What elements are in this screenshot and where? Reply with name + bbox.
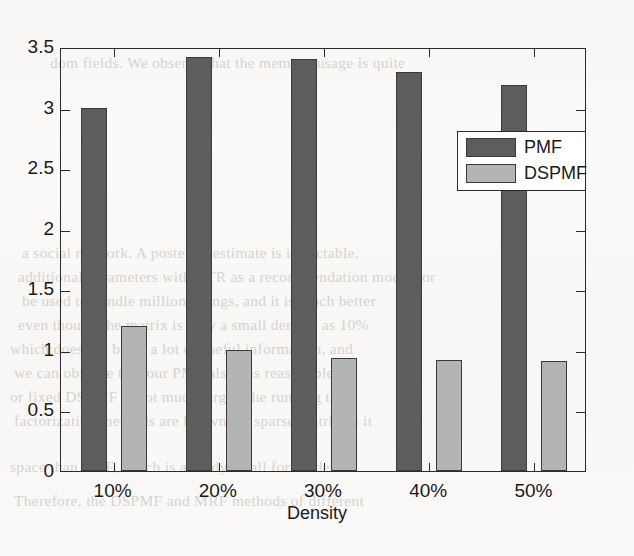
- y-tick-label: 2.5: [4, 157, 54, 179]
- y-tick-mark: [61, 170, 70, 171]
- x-tick-label: 30%: [283, 480, 363, 502]
- bar-pmf-10pct: [81, 108, 107, 471]
- legend-label-pmf: PMF: [524, 137, 562, 158]
- y-tick-mark-right: [576, 231, 585, 232]
- bar-dspmf-30pct: [331, 358, 357, 471]
- y-tick-label: 3: [4, 97, 54, 119]
- y-tick-mark: [61, 110, 70, 111]
- bar-pmf-40pct: [396, 72, 422, 471]
- x-tick-mark: [534, 463, 535, 471]
- y-tick-label: 0: [4, 460, 54, 482]
- x-tick-mark: [219, 463, 220, 471]
- y-tick-label: 1: [4, 339, 54, 361]
- bar-dspmf-40pct: [436, 360, 462, 471]
- y-tick-mark-right: [576, 110, 585, 111]
- bar-dspmf-10pct: [121, 326, 147, 471]
- x-tick-mark-top: [114, 49, 115, 57]
- y-tick-mark: [61, 231, 70, 232]
- chart-legend: PMF DSPMF: [457, 131, 586, 191]
- y-tick-label: 1.5: [4, 278, 54, 300]
- x-tick-mark: [114, 463, 115, 471]
- x-tick-label: 10%: [73, 480, 153, 502]
- x-tick-mark: [429, 463, 430, 471]
- x-tick-mark-top: [534, 49, 535, 57]
- bar-pmf-30pct: [291, 59, 317, 471]
- y-tick-mark: [61, 352, 70, 353]
- legend-swatch-dspmf: [466, 164, 516, 183]
- bar-pmf-20pct: [186, 57, 212, 471]
- bar-dspmf-20pct: [226, 350, 252, 471]
- x-tick-label: 50%: [493, 480, 573, 502]
- x-tick-mark-top: [429, 49, 430, 57]
- x-axis-title: Density: [0, 503, 634, 524]
- y-tick-mark: [61, 291, 70, 292]
- x-tick-label: 20%: [178, 480, 258, 502]
- y-tick-mark-right: [576, 352, 585, 353]
- y-tick-label: 2: [4, 218, 54, 240]
- y-tick-label: 3.5: [4, 36, 54, 58]
- y-tick-mark-right: [576, 291, 585, 292]
- y-tick-mark-right: [576, 412, 585, 413]
- x-tick-mark-top: [324, 49, 325, 57]
- x-tick-label: 40%: [388, 480, 468, 502]
- plot-area: [60, 48, 586, 472]
- x-tick-mark-top: [219, 49, 220, 57]
- bar-dspmf-50pct: [541, 361, 567, 471]
- legend-label-dspmf: DSPMF: [524, 163, 587, 184]
- x-tick-mark: [324, 463, 325, 471]
- legend-swatch-pmf: [466, 138, 516, 157]
- y-tick-label: 0.5: [4, 399, 54, 421]
- y-tick-mark: [61, 412, 70, 413]
- bar-chart-figure: 00.511.522.533.5 10%20%30%40%50% Density…: [0, 0, 634, 556]
